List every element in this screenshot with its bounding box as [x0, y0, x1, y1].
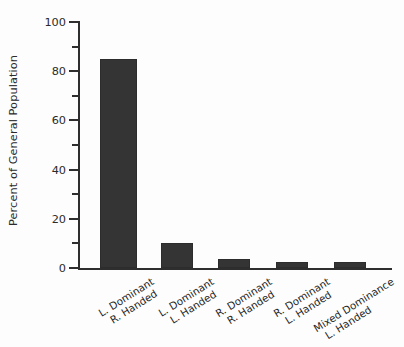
- x-axis-tick-label: L. DominantR. Handed: [97, 276, 163, 329]
- y-axis-major-tick: [69, 119, 78, 121]
- y-axis-minor-tick: [72, 242, 78, 244]
- y-axis-minor-tick: [72, 46, 78, 48]
- y-axis-major-tick: [69, 21, 78, 23]
- bar: [161, 243, 193, 268]
- plot-area: 100806040200: [78, 22, 394, 268]
- y-axis-tick-label: 100: [44, 16, 66, 29]
- y-axis-line: [78, 21, 80, 269]
- bar: [100, 59, 137, 268]
- y-axis-tick-label: 40: [52, 163, 66, 176]
- bar: [218, 259, 250, 268]
- y-axis-title-text: Percent of General Population: [7, 55, 20, 226]
- y-axis-tick-label: 80: [52, 65, 66, 78]
- y-axis-minor-tick: [72, 95, 78, 97]
- y-axis-major-tick: [69, 218, 78, 220]
- y-axis-major-tick: [69, 169, 78, 171]
- x-axis-tick-label: R. DominantR. Handed: [214, 276, 280, 330]
- y-axis-major-tick: [69, 267, 78, 269]
- y-axis-tick-label: 20: [52, 212, 66, 225]
- x-axis-tick-label: L. DominantL. Handed: [157, 276, 223, 329]
- y-axis-tick-label: 60: [52, 114, 66, 127]
- bar-chart-figure: Percent of General Population 1008060402…: [0, 0, 404, 347]
- y-axis-tick-label: 0: [59, 262, 66, 275]
- y-axis-major-tick: [69, 70, 78, 72]
- y-axis-minor-tick: [72, 144, 78, 146]
- y-axis-minor-tick: [72, 193, 78, 195]
- x-axis-tick-labels: L. DominantR. HandedL. DominantL. Handed…: [78, 268, 404, 347]
- y-axis-title: Percent of General Population: [0, 0, 26, 280]
